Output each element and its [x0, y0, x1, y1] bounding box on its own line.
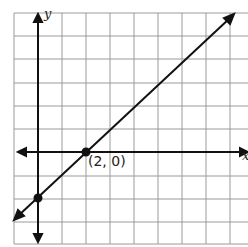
grid [14, 13, 248, 244]
plotted-line [18, 18, 230, 216]
y-axis-label: y [44, 6, 51, 21]
coordinate-plane [0, 0, 248, 247]
point-y-intercept [35, 195, 42, 202]
point-label: (2, 0) [88, 153, 126, 169]
x-axis-label: x [242, 148, 248, 163]
